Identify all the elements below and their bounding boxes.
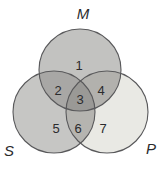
region-5-label: 5 xyxy=(52,121,59,136)
venn-diagram: 1 2 3 4 5 6 7 M S P xyxy=(0,0,163,173)
region-3-label: 3 xyxy=(76,92,83,107)
region-6-label: 6 xyxy=(74,121,81,136)
region-1-label: 1 xyxy=(75,58,82,73)
set-p-label: P xyxy=(146,140,156,157)
region-4-label: 4 xyxy=(97,83,104,98)
set-m-label: M xyxy=(77,5,90,22)
region-2-label: 2 xyxy=(54,83,61,98)
set-s-label: S xyxy=(4,142,14,159)
region-7-label: 7 xyxy=(99,121,106,136)
venn-diagram-panel: 1 2 3 4 5 6 7 M S P xyxy=(0,0,163,173)
